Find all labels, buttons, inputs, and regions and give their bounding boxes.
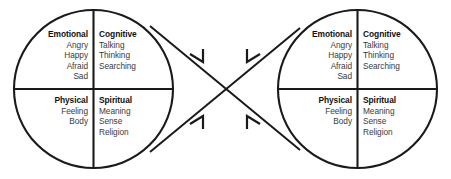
quadrant-title: Physical — [284, 95, 352, 106]
quadrant-item: Sense — [363, 116, 435, 127]
quadrant-title: Emotional — [284, 29, 352, 40]
quadrant-item: Searching — [99, 61, 171, 72]
quadrant-item: Angry — [20, 40, 88, 51]
quadrant-item: Talking — [363, 40, 435, 51]
quadrant-title: Physical — [20, 95, 88, 106]
quadrant-item: Body — [20, 116, 88, 127]
left-circle-quadrant-spiritual: Spiritual Meaning Sense Religion — [99, 95, 171, 137]
quadrant-item: Sad — [20, 71, 88, 82]
quadrant-item: Angry — [284, 40, 352, 51]
right-circle-quadrant-cognitive: Cognitive Talking Thinking Searching — [363, 29, 435, 71]
quadrant-item: Happy — [284, 50, 352, 61]
quadrant-item: Feeling — [20, 106, 88, 117]
right-circle-quadrant-physical: Physical Feeling Body — [284, 95, 352, 127]
quadrant-item: Feeling — [284, 106, 352, 117]
left-circle-quadrant-physical: Physical Feeling Body — [20, 95, 88, 127]
quadrant-item: Talking — [99, 40, 171, 51]
right-circle-quadrant-emotional: Emotional Angry Happy Afraid Sad — [284, 29, 352, 82]
quadrant-title: Cognitive — [99, 29, 171, 40]
quadrant-title: Cognitive — [363, 29, 435, 40]
right-circle-quadrant-spiritual: Spiritual Meaning Sense Religion — [363, 95, 435, 137]
quadrant-item: Religion — [99, 127, 171, 138]
quadrant-title: Spiritual — [99, 95, 171, 106]
quadrant-item: Sense — [99, 116, 171, 127]
quadrant-item: Meaning — [99, 106, 171, 117]
quadrant-item: Meaning — [363, 106, 435, 117]
quadrant-item: Happy — [20, 50, 88, 61]
quadrant-title: Emotional — [20, 29, 88, 40]
diagram-canvas: Emotional Angry Happy Afraid Sad Cogniti… — [0, 0, 451, 179]
quadrant-item: Thinking — [363, 50, 435, 61]
quadrant-item: Afraid — [20, 61, 88, 72]
quadrant-item: Searching — [363, 61, 435, 72]
left-circle-quadrant-cognitive: Cognitive Talking Thinking Searching — [99, 29, 171, 71]
arrowhead-lower-right — [247, 116, 260, 129]
arrowhead-upper-right — [247, 49, 260, 62]
quadrant-title: Spiritual — [363, 95, 435, 106]
left-circle-quadrant-emotional: Emotional Angry Happy Afraid Sad — [20, 29, 88, 82]
quadrant-item: Sad — [284, 71, 352, 82]
quadrant-item: Thinking — [99, 50, 171, 61]
diagram-graphics — [0, 0, 451, 179]
quadrant-item: Afraid — [284, 61, 352, 72]
quadrant-item: Body — [284, 116, 352, 127]
quadrant-item: Religion — [363, 127, 435, 138]
